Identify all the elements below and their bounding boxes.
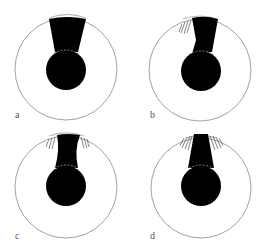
neck-shape <box>55 134 80 168</box>
diagram-canvas <box>0 0 265 249</box>
panel-b <box>149 16 251 121</box>
panel-label-c: c <box>15 231 19 241</box>
fibers-left <box>180 136 192 150</box>
neck-shape <box>49 17 86 52</box>
neck-shape <box>192 17 218 54</box>
bulb <box>46 50 86 90</box>
panel-label-b: b <box>150 110 155 120</box>
panel-a <box>15 15 117 120</box>
bulb <box>181 166 221 206</box>
fibers-right <box>210 136 223 150</box>
bulb <box>46 166 86 206</box>
panel-c <box>15 133 117 238</box>
panel-label-a: a <box>15 110 19 120</box>
bulb <box>181 51 221 91</box>
fibers <box>179 20 191 34</box>
panel-label-d: d <box>150 231 155 241</box>
panel-d <box>151 134 251 238</box>
